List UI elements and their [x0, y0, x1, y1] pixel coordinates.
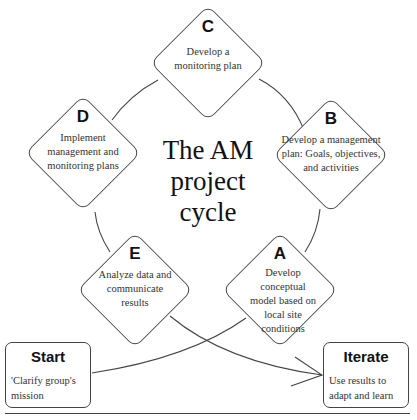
step-e-diamond: E Analyze data and communicate results [77, 232, 193, 348]
start-text: 'Clarify group's mission [11, 373, 86, 403]
step-d-diamond: D Implement management and monitoring pl… [25, 95, 141, 211]
arrowhead-icon [291, 357, 322, 386]
am-project-cycle-diagram: C Develop a monitoring plan D Implement … [0, 0, 417, 420]
start-title: Start [6, 348, 90, 365]
step-text: Implement management and monitoring plan… [39, 131, 127, 173]
iterate-box: Iterate Use results to adapt and learn [323, 342, 409, 408]
step-a-diamond: A Develop conceptual model based on loca… [222, 232, 338, 348]
iterate-text: Use results to adapt and learn [329, 373, 404, 403]
step-text: Develop a monitoring plan [164, 45, 252, 73]
step-text: Develop conceptual model based on local … [248, 266, 318, 336]
cycle-title: The AM project cycle [140, 135, 276, 228]
start-box: Start 'Clarify group's mission [5, 342, 91, 408]
step-b-diamond: B Develop a management plan: Goals, obje… [273, 97, 389, 213]
step-letter: A [222, 244, 338, 264]
step-text: Analyze data and communicate results [97, 268, 173, 310]
iterate-title: Iterate [324, 348, 408, 365]
step-letter: E [77, 244, 193, 264]
step-letter: D [25, 107, 141, 127]
bottom-divider [5, 413, 410, 414]
step-c-diamond: C Develop a monitoring plan [150, 5, 266, 121]
step-letter: B [273, 109, 389, 129]
step-letter: C [150, 17, 266, 37]
step-text: Develop a management plan: Goals, object… [281, 133, 381, 175]
